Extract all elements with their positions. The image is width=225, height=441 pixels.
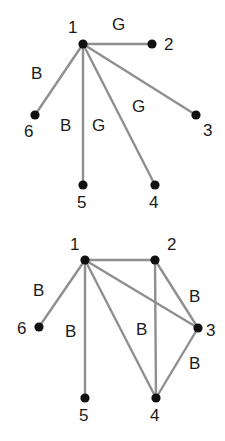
- node-label-top-graph-1: 1: [68, 18, 77, 37]
- node-label-top-graph-5: 5: [77, 193, 86, 212]
- edge-label-top-graph-1-4: G: [92, 116, 105, 135]
- node-top-graph-1: [78, 39, 87, 48]
- node-label-bottom-graph-4: 4: [150, 406, 159, 425]
- graph-figure: GGGBB123456BBBBB123456: [0, 0, 225, 441]
- edge-label-bottom-graph-1-5: B: [65, 322, 76, 341]
- labels-layer: GGGBB123456BBBBB123456: [17, 15, 215, 425]
- edge-label-top-graph-1-2: G: [112, 15, 125, 34]
- edge-label-bottom-graph-2-4: B: [136, 320, 147, 339]
- edge-label-bottom-graph-2-3: B: [189, 287, 200, 306]
- node-label-bottom-graph-3: 3: [206, 321, 215, 340]
- edge-label-bottom-graph-3-4: B: [189, 354, 200, 373]
- nodes-layer: [30, 39, 202, 402]
- node-top-graph-5: [78, 180, 87, 189]
- node-top-graph-2: [147, 39, 156, 48]
- node-label-bottom-graph-2: 2: [167, 235, 176, 254]
- edge-label-top-graph-1-6: B: [31, 64, 42, 83]
- node-label-top-graph-6: 6: [24, 122, 33, 141]
- node-label-bottom-graph-6: 6: [17, 319, 26, 338]
- edges-layer: [35, 44, 198, 398]
- node-bottom-graph-1: [80, 255, 89, 264]
- edge-bottom-graph-2-4: [155, 260, 156, 398]
- node-bottom-graph-2: [150, 255, 159, 264]
- node-bottom-graph-4: [151, 393, 160, 402]
- node-label-bottom-graph-1: 1: [70, 235, 79, 254]
- node-bottom-graph-6: [34, 322, 43, 331]
- edge-label-bottom-graph-1-6: B: [33, 281, 44, 300]
- node-bottom-graph-5: [80, 393, 89, 402]
- node-label-bottom-graph-5: 5: [79, 406, 88, 425]
- node-top-graph-3: [191, 110, 200, 119]
- node-top-graph-4: [150, 180, 159, 189]
- edge-bottom-graph-1-6: [39, 260, 85, 327]
- node-label-top-graph-3: 3: [203, 121, 212, 140]
- node-label-top-graph-4: 4: [149, 193, 158, 212]
- node-label-top-graph-2: 2: [164, 35, 173, 54]
- edge-label-top-graph-1-5: B: [60, 116, 71, 135]
- node-bottom-graph-3: [193, 323, 202, 332]
- graph-canvas: GGGBB123456BBBBB123456: [0, 0, 225, 441]
- node-top-graph-6: [30, 110, 39, 119]
- edge-label-top-graph-1-3: G: [132, 97, 145, 116]
